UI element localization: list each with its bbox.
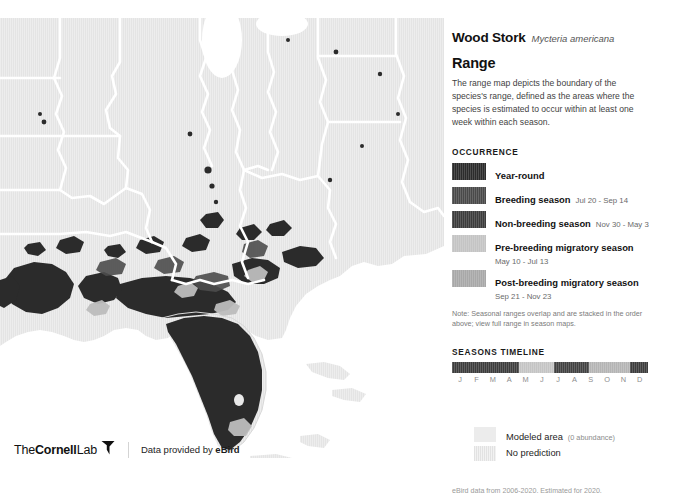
month-label-jan: J <box>452 375 468 384</box>
legend-item-post-breeding-migratory[interactable]: Post-breeding migratory season Sep 21 - … <box>452 270 664 302</box>
cornell-bird-mark-icon <box>100 440 116 459</box>
legend-dates-non-breeding: Nov 30 - May 3 <box>596 220 649 229</box>
map-canvas[interactable] <box>0 18 444 458</box>
month-label-jul: J <box>550 375 566 384</box>
legend-label-non-breeding: Non-breeding season <box>495 218 591 229</box>
occurrence-legend: Year-round Breeding seasonJul 20 - Sep 1… <box>452 163 664 301</box>
ebird-credit-prefix: Data provided by <box>141 444 215 455</box>
legend-item-pre-breeding-migratory[interactable]: Pre-breeding migratory season May 10 - J… <box>452 235 664 267</box>
species-scientific-name: Mycteria americana <box>532 33 615 44</box>
legend-label-pre-breeding-migratory: Pre-breeding migratory season <box>495 242 634 253</box>
cornell-lab-logo[interactable]: TheCornellLab <box>14 440 116 459</box>
legend-label-no-prediction: No prediction <box>506 448 561 458</box>
month-label-dec: D <box>632 375 648 384</box>
month-label-feb: F <box>468 375 484 384</box>
month-label-jun: J <box>534 375 550 384</box>
brand-divider <box>128 442 129 458</box>
timeline-segment-post-breeding <box>589 362 630 373</box>
legend-dates-pre-breeding-migratory: May 10 - Jul 13 <box>495 257 634 267</box>
legend-swatch-non-breeding <box>452 211 486 228</box>
legend-item-year-round[interactable]: Year-round <box>452 163 664 184</box>
species-header: Wood Stork Mycteria americana <box>452 30 664 45</box>
ebird-data-credit: Data provided by eBird <box>141 444 240 455</box>
legend-dates-breeding: Jul 20 - Sep 14 <box>576 196 628 205</box>
ebird-credit-brand: eBird <box>215 444 239 455</box>
footer-brand-row: TheCornellLab Data provided by eBird <box>14 440 240 459</box>
timeline-bar[interactable] <box>452 362 648 373</box>
legend-label-post-breeding-migratory: Post-breeding migratory season <box>495 277 639 288</box>
lake-okeechobee <box>234 394 244 406</box>
legend-swatch-post-breeding-migratory <box>452 270 486 287</box>
timeline-segment-non-breeding <box>452 362 519 373</box>
logo-text-cornell: Cornell <box>35 443 77 457</box>
timeline-segment-breeding <box>554 362 589 373</box>
month-label-mar: M <box>485 375 501 384</box>
section-description: The range map depicts the boundary of th… <box>452 77 648 129</box>
legend-sub-modeled-area: (0 abundance) <box>568 433 615 442</box>
legend-item-breeding[interactable]: Breeding seasonJul 20 - Sep 14 <box>452 187 664 208</box>
month-label-may: M <box>517 375 533 384</box>
legend-item-modeled-area[interactable]: Modeled area(0 abundance) <box>474 426 664 444</box>
legend-dates-post-breeding-migratory: Sep 21 - Nov 23 <box>495 292 639 302</box>
legend-swatch-modeled-area <box>474 427 496 442</box>
legend-item-no-prediction[interactable]: No prediction <box>474 446 664 461</box>
month-label-aug: A <box>566 375 582 384</box>
seasons-timeline-heading: SEASONS TIMELINE <box>452 347 664 357</box>
map-panel[interactable]: TheCornellLab Data provided by eBird <box>0 0 444 501</box>
legend-swatch-year-round <box>452 163 486 180</box>
legend-swatch-pre-breeding-migratory <box>452 235 486 252</box>
legend-label-modeled-area: Modeled area <box>506 432 563 442</box>
occurrence-note: Note: Seasonal ranges overlap and are st… <box>452 309 658 329</box>
logo-text-lab: Lab <box>77 443 97 457</box>
timeline-month-labels: J F M A M J J A S O N D <box>452 375 648 384</box>
range-map-page: TheCornellLab Data provided by eBird Woo… <box>0 0 692 501</box>
timeline-segment-pre-breeding <box>519 362 554 373</box>
month-label-apr: A <box>501 375 517 384</box>
legend-swatch-breeding <box>452 187 486 204</box>
occurrence-heading: OCCURRENCE <box>452 147 664 157</box>
data-source-line: eBird data from 2006-2020. Estimated for… <box>452 487 664 495</box>
month-label-nov: N <box>615 375 631 384</box>
abundance-legend: Modeled area(0 abundance) No prediction <box>474 426 664 461</box>
month-label-sep: S <box>583 375 599 384</box>
species-common-name: Wood Stork <box>452 30 526 45</box>
legend-item-non-breeding[interactable]: Non-breeding seasonNov 30 - May 3 <box>452 211 664 232</box>
legend-swatch-no-prediction <box>474 446 496 461</box>
page-title: Range <box>452 55 664 71</box>
logo-text-the: The <box>14 443 35 457</box>
timeline-segment-non-breeding-end <box>630 362 648 373</box>
info-sidebar: Wood Stork Mycteria americana Range The … <box>444 0 692 501</box>
legend-label-year-round: Year-round <box>495 170 545 181</box>
month-label-oct: O <box>599 375 615 384</box>
legend-label-breeding: Breeding season <box>495 194 571 205</box>
range-map-graphic <box>0 18 444 458</box>
seasons-timeline: SEASONS TIMELINE J F M A M J J A <box>452 347 664 384</box>
